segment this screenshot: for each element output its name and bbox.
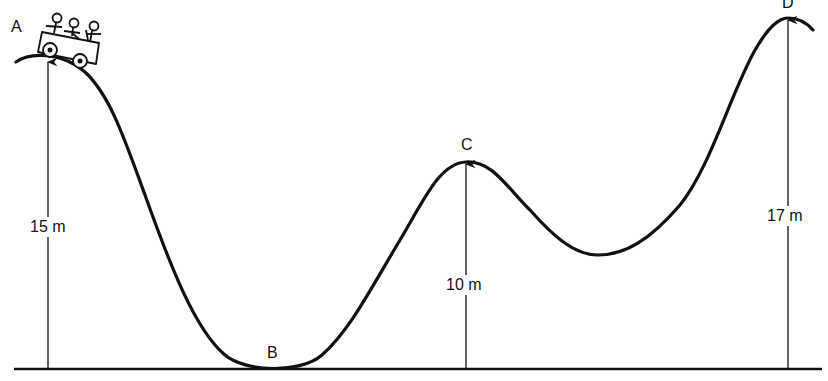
height-label-c: 10 m <box>446 275 482 295</box>
roller-coaster-diagram: A B C D 15 m 10 m 17 m <box>0 0 828 381</box>
point-label-b: B <box>267 345 278 361</box>
diagram-canvas <box>0 0 828 381</box>
point-label-c: C <box>461 137 473 153</box>
height-label-d: 17 m <box>767 206 803 226</box>
point-label-d: D <box>782 0 794 11</box>
roller-coaster-car-icon <box>38 14 101 69</box>
point-label-a: A <box>11 19 22 35</box>
height-label-a: 15 m <box>30 217 66 237</box>
track-curve <box>16 18 813 369</box>
